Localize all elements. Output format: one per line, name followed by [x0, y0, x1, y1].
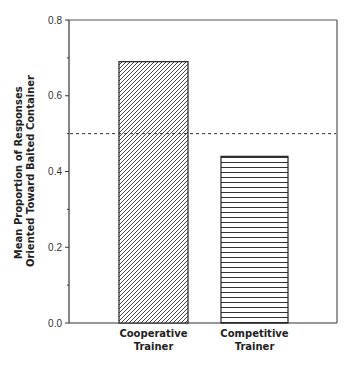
y-tick-label: 0.4: [48, 166, 62, 177]
category-label: Competitive: [220, 328, 289, 339]
category-label: Trainer: [235, 341, 275, 352]
bar-1: [119, 62, 188, 323]
y-tick-label: 0.6: [48, 90, 62, 101]
bars: [119, 62, 288, 323]
y-axis-title: Mean Proportion of Responses Oriented To…: [13, 75, 36, 267]
category-label: Trainer: [134, 341, 174, 352]
bar-2: [221, 156, 288, 323]
category-labels: CooperativeTrainerCompetitiveTrainer: [119, 328, 288, 352]
y-tick-label: 0.8: [48, 15, 62, 26]
y-tick-label: 0.2: [48, 242, 62, 253]
y-tick-label: 0.0: [48, 318, 62, 329]
category-label: Cooperative: [119, 328, 187, 339]
bar-chart: 0.00.20.40.60.8 CooperativeTrainerCompet…: [0, 0, 354, 366]
y-ticks: 0.00.20.40.60.8: [48, 15, 69, 329]
plot-frame: [69, 20, 337, 323]
